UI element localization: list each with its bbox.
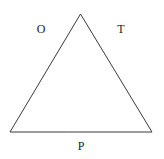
label-left-side: O bbox=[37, 22, 46, 36]
triangle-diagram: O T P bbox=[0, 0, 164, 159]
triangle bbox=[10, 14, 152, 132]
label-right-side: T bbox=[117, 22, 125, 36]
label-base: P bbox=[78, 139, 85, 153]
